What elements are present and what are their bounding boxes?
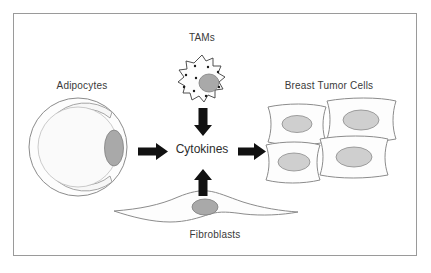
- label-breast-tumor-cells: Breast Tumor Cells: [268, 80, 390, 92]
- tumor-cell-nucleus: [336, 147, 372, 167]
- label-cytokines: Cytokines: [160, 142, 244, 156]
- fibroblast-nucleus: [192, 199, 218, 215]
- breast-tumor-cell-cluster: [266, 98, 396, 183]
- adipocyte-cell: [29, 98, 127, 196]
- adipocyte-nucleus: [105, 130, 124, 166]
- arrow-tams-to-cytokines: [194, 108, 212, 136]
- tumor-cell-bottom-right: [320, 136, 388, 178]
- label-adipocytes: Adipocytes: [28, 80, 136, 92]
- tumor-cell-nucleus: [282, 116, 312, 133]
- label-tams: TAMs: [160, 32, 244, 44]
- arrow-down-glyph: [194, 108, 212, 136]
- tumor-cell-bottom-left: [266, 142, 320, 183]
- tumor-cell-top-right: [327, 98, 396, 142]
- tam-cell: [178, 55, 225, 102]
- tumor-cell-nucleus: [278, 153, 310, 171]
- tumor-cell-nucleus: [343, 110, 379, 130]
- label-fibroblasts: Fibroblasts: [160, 229, 270, 241]
- figure-root: Adipocytes TAMs Breast Tumor Cells Fibro…: [0, 0, 431, 273]
- tam-nucleus: [199, 74, 219, 92]
- tumor-cell-top-left: [268, 104, 326, 145]
